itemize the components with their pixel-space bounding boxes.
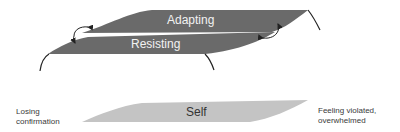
adapting-label: Adapting: [167, 13, 214, 27]
resisting-label: Resisting: [131, 37, 180, 51]
adapting-right-curve: [308, 10, 320, 30]
right-side-label: Feeling violated, overwhelmed: [318, 106, 376, 126]
left-side-label: Losing confirmation: [16, 107, 60, 127]
resisting-right-curve: [205, 54, 214, 70]
self-label: Self: [186, 105, 207, 119]
resisting-left-curve: [40, 54, 49, 71]
